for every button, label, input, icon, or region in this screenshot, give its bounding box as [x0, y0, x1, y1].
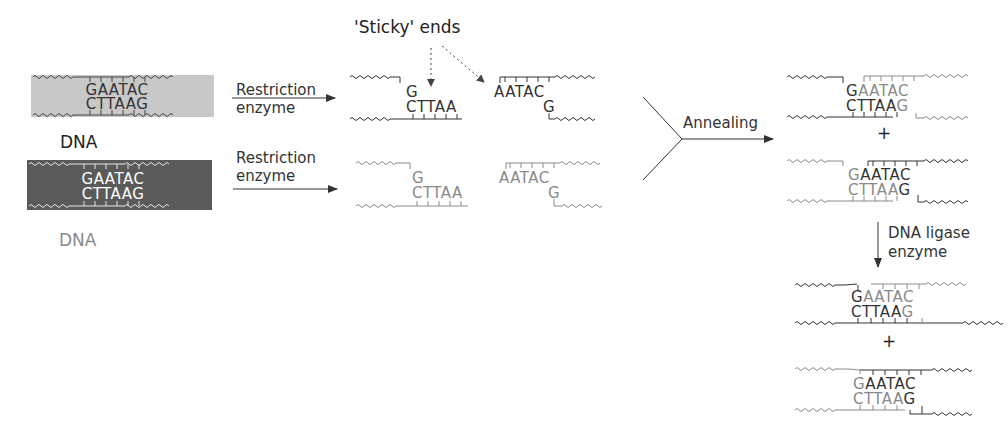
annealing-step: Annealing	[643, 97, 773, 180]
right-bottom-sequence: G	[548, 184, 560, 202]
dna-label: DNA	[60, 132, 98, 152]
seq-part: CTTAA	[853, 390, 904, 408]
right-top-sequence: AATAC	[499, 169, 550, 187]
ligase-label-line2: enzyme	[888, 243, 947, 261]
right-top-sequence: AATAC	[494, 83, 545, 101]
ligated-product-2: GAATAC CTTAAG	[795, 368, 972, 416]
seq-part: G	[902, 303, 914, 321]
svg-text:CTTAAG: CTTAAG	[851, 303, 914, 321]
bottom-sequence: CTTAAG	[82, 185, 145, 203]
dna-input-light: GAATAC CTTAAG DNA	[31, 75, 214, 152]
bottom-sequence: CTTAAG	[86, 95, 149, 113]
right-bottom-sequence: G	[543, 98, 555, 116]
ligase-label-line1: DNA ligase	[888, 224, 970, 242]
sticky-ends-label: 'Sticky' ends	[354, 17, 461, 37]
dna-input-dark: GAATAC CTTAAG DNA	[27, 160, 212, 250]
restriction-label-line1: Restriction	[236, 149, 316, 167]
plus-sign: +	[877, 123, 891, 143]
dashed-arrow-icon	[442, 46, 484, 82]
cut-fragments-grey: G CTTAA AATAC G	[356, 162, 602, 208]
ligase-step: DNA ligase enzyme	[878, 222, 970, 267]
restriction-step-1: Restriction enzyme	[232, 81, 335, 117]
dna-recombination-diagram: GAATAC CTTAAG DNA GAATAC CTTAAG DNA Rest…	[0, 0, 1008, 436]
ligated-product-1: GAATAC CTTAAG	[795, 283, 1003, 325]
left-bottom-sequence: CTTAA	[406, 98, 457, 116]
sticky-ends-annotation: 'Sticky' ends	[354, 17, 484, 86]
svg-text:CTTAAG: CTTAAG	[846, 97, 909, 115]
annealing-label: Annealing	[683, 114, 758, 132]
restriction-label-line2: enzyme	[236, 99, 295, 117]
annealed-product-1: GAATAC CTTAAG	[787, 75, 968, 120]
dna-label: DNA	[59, 230, 97, 250]
seq-part: G	[904, 390, 916, 408]
seq-part: CTTAA	[851, 303, 902, 321]
seq-part: CTTAA	[848, 181, 899, 199]
annealed-product-2: GAATAC CTTAAG	[787, 160, 968, 204]
cut-fragments-dark: G CTTAA AATAC G	[350, 76, 595, 121]
seq-part: G	[897, 97, 909, 115]
seq-part: G	[899, 181, 911, 199]
left-bottom-sequence: CTTAA	[412, 184, 463, 202]
restriction-label-line2: enzyme	[236, 167, 295, 185]
seq-part: CTTAA	[846, 97, 897, 115]
plus-sign: +	[882, 331, 896, 351]
svg-text:CTTAAG: CTTAAG	[848, 181, 911, 199]
restriction-label-line1: Restriction	[236, 81, 316, 99]
restriction-step-2: Restriction enzyme	[233, 149, 337, 189]
svg-text:CTTAAG: CTTAAG	[853, 390, 916, 408]
